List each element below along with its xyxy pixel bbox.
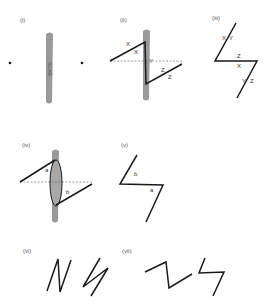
mark-y-1: Y xyxy=(229,35,233,41)
transposed-z xyxy=(120,155,163,222)
mark-x-2: X xyxy=(134,49,138,55)
panel-label-i: (i) xyxy=(20,17,25,23)
panel-iii: (iii) X Y Z X Y Z xyxy=(212,15,257,98)
mark-z-1: Z xyxy=(237,53,241,59)
excision-ellipse xyxy=(50,160,62,206)
scar xyxy=(143,30,150,101)
z-plasty-diagram: (i) SCAR (ii) X X Y Z Z (iii) X Y Z X Y … xyxy=(0,0,271,308)
mark-y: Y xyxy=(149,58,153,64)
point-left xyxy=(9,62,12,65)
panel-label-iii: (iii) xyxy=(212,15,220,21)
mark-x-1: X xyxy=(126,41,130,47)
panel-i: (i) SCAR xyxy=(9,17,84,104)
panel-ii: (ii) X X Y Z Z xyxy=(110,17,182,101)
panel-vii: (vii) xyxy=(122,248,224,296)
mark-y-2: Y xyxy=(242,78,246,84)
scar-label: SCAR xyxy=(47,62,53,76)
z-shape-horizontal xyxy=(145,262,192,288)
point-right xyxy=(81,62,84,65)
mark-x-2: X xyxy=(237,63,241,69)
panel-v: (v) b a xyxy=(120,142,163,222)
mark-b: b xyxy=(66,189,70,195)
mark-z-1: Z xyxy=(161,67,165,73)
zigzag-shape xyxy=(83,258,108,296)
n-shape xyxy=(47,259,71,292)
panel-label-ii: (ii) xyxy=(120,17,127,23)
panel-label-vi: (vi) xyxy=(23,248,31,254)
panel-label-vii: (vii) xyxy=(122,248,132,254)
mark-x-1: X xyxy=(222,35,226,41)
mark-z-2: Z xyxy=(168,74,172,80)
panel-iv: (iv) a b xyxy=(20,142,92,223)
panel-vi: (vi) xyxy=(23,248,108,296)
z-shape-vertical xyxy=(199,258,224,296)
mark-a: a xyxy=(150,187,154,193)
panel-label-v: (v) xyxy=(121,142,128,148)
panel-label-iv: (iv) xyxy=(22,142,30,148)
mark-b: b xyxy=(134,171,138,177)
mark-a: a xyxy=(45,167,49,173)
mark-z-2: Z xyxy=(250,78,254,84)
